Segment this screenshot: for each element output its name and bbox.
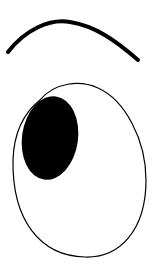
pupil bbox=[16, 93, 83, 184]
eyebrow-stroke bbox=[8, 21, 138, 60]
eye-drawing bbox=[0, 0, 155, 276]
